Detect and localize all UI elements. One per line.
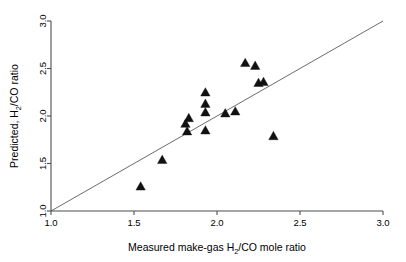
x-tick-label: 1.5 <box>127 217 140 228</box>
chart-canvas: 1.01.52.02.53.0 1.01.52.02.53.0 Measured… <box>0 0 406 262</box>
y-axis-ticks: 1.01.52.02.53.0 <box>37 14 51 217</box>
data-point-marker <box>201 99 210 107</box>
x-tick-label: 2.0 <box>210 217 223 228</box>
data-point-marker <box>158 155 167 163</box>
data-point-marker <box>201 108 210 116</box>
scatter-plot-figure: 1.01.52.02.53.0 1.01.52.02.53.0 Measured… <box>0 0 406 262</box>
x-axis-title: Measured make-gas H2/CO mole ratio <box>128 241 306 256</box>
data-point-marker <box>136 182 145 190</box>
data-point-marker <box>201 126 210 134</box>
y-tick-label: 2.5 <box>37 62 48 75</box>
data-point-marker <box>269 131 278 139</box>
y-tick-label: 3.0 <box>37 14 48 27</box>
x-axis-ticks: 1.01.52.02.53.0 <box>44 211 389 228</box>
identity-line <box>51 21 383 211</box>
y-tick-label: 1.0 <box>37 204 48 217</box>
x-tick-label: 2.5 <box>293 217 306 228</box>
x-tick-label: 3.0 <box>376 217 389 228</box>
identity-line-segment <box>51 21 383 211</box>
y-tick-label: 1.5 <box>37 157 48 170</box>
y-axis-title: Predicted, H2/CO ratio <box>8 64 23 168</box>
x-tick-label: 1.0 <box>44 217 57 228</box>
data-point-marker <box>184 113 193 121</box>
data-point-marker <box>250 61 259 69</box>
data-point-marker <box>241 58 250 66</box>
data-point-marker <box>201 88 210 96</box>
y-tick-label: 2.0 <box>37 109 48 122</box>
data-points <box>136 58 278 190</box>
